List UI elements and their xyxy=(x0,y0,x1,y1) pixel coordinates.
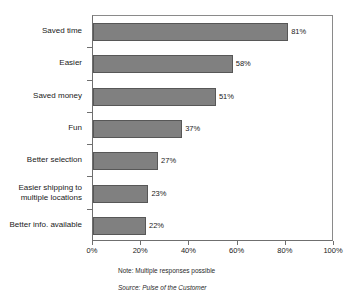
bar-value-label: 58% xyxy=(236,61,251,69)
bar-value-label: 81% xyxy=(291,28,306,36)
y-axis-tick-label: Fun xyxy=(0,112,87,144)
x-axis-tick-label: 20% xyxy=(133,247,148,255)
bar: 22% xyxy=(93,217,146,235)
bar-value-label: 27% xyxy=(161,158,176,166)
bar-chart-figure: Saved timeEasierSaved moneyFunBetter sel… xyxy=(0,0,351,302)
note-text: Note: Multiple responses possible xyxy=(118,268,215,275)
x-axis-tick xyxy=(333,241,334,245)
x-axis-tick xyxy=(92,241,93,245)
source-text: Source: Pulse of the Customer xyxy=(118,285,207,292)
x-axis-tick xyxy=(285,241,286,245)
y-axis-tick-label: Easier shipping tomultiple locations xyxy=(0,176,87,208)
bar: 81% xyxy=(93,23,288,41)
y-axis-tick-label: Easier xyxy=(0,47,87,79)
bar: 58% xyxy=(93,55,233,73)
bar-value-label: 23% xyxy=(151,190,166,198)
plot-area: 81%58%51%37%27%23%22% xyxy=(92,15,333,241)
x-axis-tick xyxy=(140,241,141,245)
bar-value-label: 51% xyxy=(219,93,234,101)
x-axis-tick-label: 0% xyxy=(87,247,98,255)
x-axis-tick-label: 80% xyxy=(277,247,292,255)
y-axis-labels: Saved timeEasierSaved moneyFunBetter sel… xyxy=(0,15,87,241)
x-axis-tick xyxy=(188,241,189,245)
bar: 27% xyxy=(93,152,158,170)
bar-value-label: 22% xyxy=(149,222,164,230)
x-axis-tick-label: 100% xyxy=(323,247,342,255)
bar: 23% xyxy=(93,185,148,203)
bar-row: 51% xyxy=(93,81,332,113)
x-axis-tick xyxy=(237,241,238,245)
bar-row: 27% xyxy=(93,145,332,177)
bar: 51% xyxy=(93,88,216,106)
bar-row: 23% xyxy=(93,177,332,209)
y-axis-tick-label: Saved time xyxy=(0,15,87,47)
bar-row: 81% xyxy=(93,16,332,48)
bar: 37% xyxy=(93,120,182,138)
x-axis-tick-label: 40% xyxy=(181,247,196,255)
y-axis-tick-label: Saved money xyxy=(0,80,87,112)
x-axis-tick-label: 60% xyxy=(229,247,244,255)
bar-row: 37% xyxy=(93,113,332,145)
bar-value-label: 37% xyxy=(185,125,200,133)
y-axis-tick-label: Better info. available xyxy=(0,209,87,241)
bar-row: 58% xyxy=(93,48,332,80)
y-axis-tick-label: Better selection xyxy=(0,144,87,176)
bar-row: 22% xyxy=(93,210,332,242)
